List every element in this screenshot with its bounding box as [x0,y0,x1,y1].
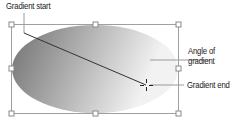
handle-bottom-middle[interactable] [93,111,98,116]
label-gradient-end: Gradient end [187,80,230,90]
handle-bottom-right[interactable] [176,111,181,116]
handle-bottom-left[interactable] [9,111,14,116]
handle-top-left[interactable] [9,22,14,27]
handle-top-right[interactable] [176,22,181,27]
label-gradient-start: Gradient start [6,1,50,11]
handle-top-middle[interactable] [93,22,98,27]
handle-middle-right[interactable] [176,66,181,71]
handle-middle-left[interactable] [9,66,14,71]
label-angle-of-gradient-line1: Angle of [188,46,215,56]
label-angle-of-gradient-line2: gradient [188,56,215,66]
